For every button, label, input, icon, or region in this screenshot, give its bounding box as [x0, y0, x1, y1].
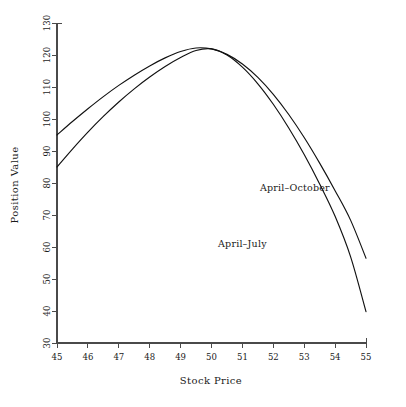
series-label-april-july: April–July: [217, 238, 267, 249]
line-chart: 30405060708090100110120130 4546474849505…: [0, 0, 406, 407]
y-axis-title: Position Value: [9, 147, 20, 224]
x-axis-title: Stock Price: [180, 375, 242, 386]
y-tick-label: 60: [42, 242, 52, 253]
x-tick-label: 47: [113, 352, 124, 362]
x-tick-label: 51: [237, 352, 248, 362]
x-axis: 4546474849505152535455: [52, 338, 372, 362]
x-tick-label: 46: [82, 352, 93, 362]
x-tick-label: 54: [330, 352, 341, 362]
x-tick-label: 50: [206, 352, 217, 362]
y-tick-label: 30: [42, 338, 52, 349]
x-tick-label: 48: [144, 352, 155, 362]
y-tick-label: 70: [42, 210, 52, 221]
y-tick-label: 120: [42, 47, 52, 63]
series-label-april-october: April–October: [259, 182, 330, 193]
y-tick-label: 100: [42, 111, 52, 127]
series-curves: [57, 48, 366, 312]
series-curve-april-october: [57, 48, 366, 258]
chart-figure: 30405060708090100110120130 4546474849505…: [0, 0, 406, 407]
x-tick-label: 49: [175, 352, 186, 362]
y-axis: 30405060708090100110120130: [42, 15, 63, 349]
y-tick-label: 90: [42, 146, 52, 157]
y-tick-label: 80: [42, 178, 52, 189]
x-tick-label: 45: [52, 352, 63, 362]
y-tick-label: 130: [42, 15, 52, 31]
y-tick-label: 50: [42, 274, 52, 285]
series-annotations: April–OctoberApril–July: [217, 182, 330, 249]
x-tick-label: 55: [361, 352, 372, 362]
x-tick-label: 53: [299, 352, 310, 362]
y-tick-label: 40: [42, 306, 52, 317]
y-tick-label: 110: [42, 79, 52, 95]
x-tick-label: 52: [268, 352, 279, 362]
series-curve-april-july: [57, 49, 366, 312]
